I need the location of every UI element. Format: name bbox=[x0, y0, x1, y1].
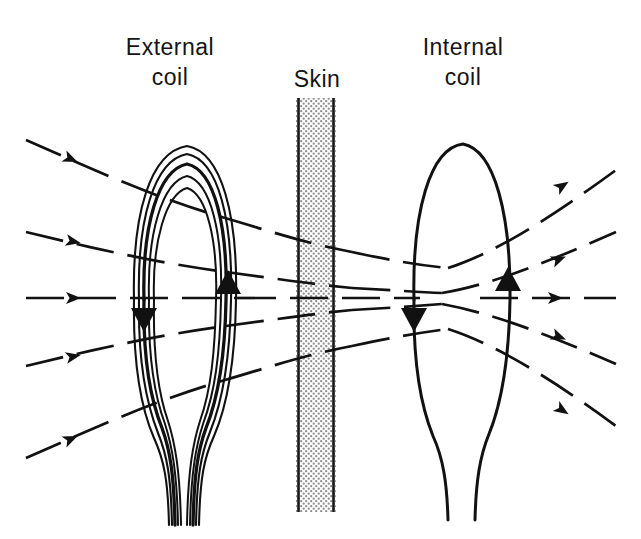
flux-line-right-1 bbox=[448, 170, 616, 268]
flux-line-mid-1b bbox=[352, 252, 448, 268]
flux-line-left-4 bbox=[26, 326, 226, 366]
external-coil-turn-5-right bbox=[154, 188, 216, 525]
diagram-svg bbox=[0, 0, 641, 539]
flux-line-left-2 bbox=[26, 232, 226, 272]
skin-fill bbox=[296, 98, 336, 512]
flux-arrow-left-2 bbox=[65, 234, 82, 249]
flux-line-mid-2b bbox=[352, 288, 442, 293]
skin-layer bbox=[296, 98, 336, 512]
figure-canvas: External coil Skin Internal coil bbox=[0, 0, 641, 539]
flux-line-mid-4b bbox=[352, 304, 442, 310]
flux-arrow-right-5 bbox=[553, 401, 572, 419]
flux-arrow-left-4 bbox=[65, 349, 82, 364]
external-coil bbox=[134, 146, 236, 525]
flux-arrow-left-5 bbox=[62, 430, 81, 447]
flux-arrow-left-1 bbox=[62, 151, 81, 168]
flux-arrow-right-1 bbox=[553, 177, 572, 195]
internal-coil-current-arrows bbox=[401, 267, 521, 332]
flux-line-right-2 bbox=[442, 232, 616, 293]
flux-line-mid-5b bbox=[352, 329, 448, 346]
flux-arrow-left-3 bbox=[66, 292, 81, 304]
flux-line-right-4 bbox=[442, 304, 616, 364]
flux-line-right-5 bbox=[448, 329, 616, 426]
internal-coil-current-arrow-down bbox=[401, 308, 427, 332]
flux-line-left-5 bbox=[26, 380, 225, 458]
